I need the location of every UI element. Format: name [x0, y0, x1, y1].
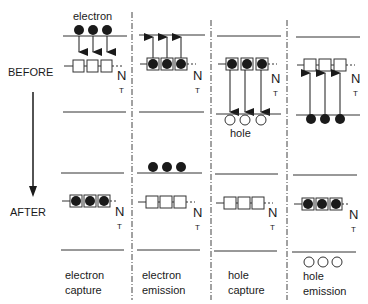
electron-icon	[317, 199, 327, 209]
electron-icon	[176, 162, 186, 172]
svg-text:N: N	[117, 68, 126, 83]
electron-icon	[335, 114, 345, 124]
col4-after: N T hole emission	[292, 175, 358, 297]
hole-icon	[304, 257, 314, 267]
col3-after: N T hole capture	[214, 174, 278, 296]
hole-icon	[225, 115, 235, 125]
svg-text:T: T	[117, 222, 122, 231]
electron-icon	[257, 59, 267, 69]
svg-text:T: T	[195, 86, 200, 95]
electron-icon	[162, 59, 172, 69]
electron-icon	[227, 59, 237, 69]
svg-text:N: N	[349, 207, 358, 222]
caption-line1: hole	[228, 269, 249, 281]
electron-icon	[320, 114, 330, 124]
after-label: AFTER	[10, 206, 46, 218]
caption-line1: electron	[65, 269, 104, 281]
col2-before: N T	[139, 35, 205, 112]
column-dividers	[132, 12, 287, 300]
before-label: BEFORE	[8, 66, 53, 78]
col1-before: electron N T	[63, 10, 127, 112]
svg-text:T: T	[195, 223, 200, 232]
svg-text:N: N	[351, 71, 360, 86]
electron-icon	[88, 25, 98, 35]
electron-icon	[85, 196, 95, 206]
electron-icon	[306, 114, 316, 124]
hole-annotation: hole	[230, 127, 251, 139]
electron-icon	[148, 162, 158, 172]
time-arrow-icon	[29, 92, 37, 197]
electron-icon	[162, 162, 172, 172]
col3-before: N T hole	[216, 36, 281, 139]
electron-icon	[331, 199, 341, 209]
trap-process-diagram: BEFORE AFTER electron N T	[0, 0, 368, 304]
electron-icon	[74, 25, 84, 35]
col1-after: N T electron capture	[61, 173, 124, 296]
svg-text:N: N	[271, 71, 280, 86]
hole-icon	[240, 115, 250, 125]
svg-text:T: T	[351, 225, 356, 234]
svg-text:T: T	[270, 223, 275, 232]
hole-icon	[318, 257, 328, 267]
svg-text:N: N	[193, 68, 202, 83]
svg-text:T: T	[353, 89, 358, 98]
hole-icon	[332, 257, 342, 267]
electron-icon	[71, 196, 81, 206]
svg-text:N: N	[193, 205, 202, 220]
electron-icon	[148, 59, 158, 69]
col2-after: N T electron emission	[137, 162, 202, 296]
electron-annotation: electron	[73, 10, 112, 22]
caption-line2: capture	[65, 284, 102, 296]
electron-icon	[303, 199, 313, 209]
electron-icon	[176, 59, 186, 69]
hole-icon	[256, 115, 266, 125]
svg-text:T: T	[119, 86, 124, 95]
svg-text:T: T	[273, 89, 278, 98]
svg-text:N: N	[115, 204, 124, 219]
electron-icon	[242, 59, 252, 69]
caption-line1: electron	[142, 269, 181, 281]
col4-before: N T	[296, 37, 360, 124]
caption-line2: capture	[228, 284, 265, 296]
caption-line2: emission	[142, 284, 185, 296]
electron-icon	[102, 25, 112, 35]
svg-text:N: N	[268, 205, 277, 220]
electron-icon	[99, 196, 109, 206]
caption-line2: emission	[303, 285, 346, 297]
caption-line1: hole	[303, 270, 324, 282]
